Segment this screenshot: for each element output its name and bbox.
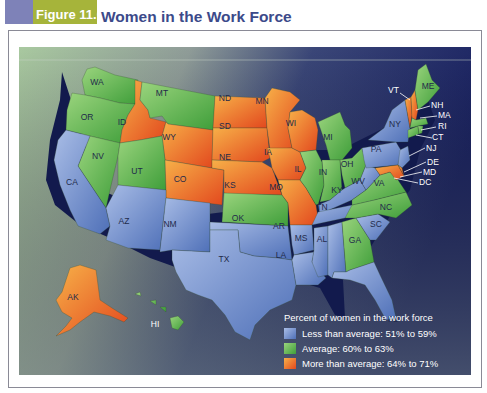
label-OK: OK — [232, 213, 245, 223]
legend-swatch-blue — [284, 328, 296, 339]
label-MN: MN — [255, 96, 268, 106]
legend-item-less: Less than average: 51% to 59% — [284, 326, 464, 341]
label-NY: NY — [389, 119, 401, 129]
label-MA: MA — [438, 110, 451, 120]
label-SC: SC — [370, 219, 382, 229]
label-PA: PA — [371, 144, 382, 154]
label-WV: WV — [351, 176, 365, 186]
legend-item-average: Average: 60% to 63% — [284, 341, 464, 356]
label-MS: MS — [295, 233, 308, 243]
label-AK: AK — [67, 292, 79, 302]
label-IN: IN — [319, 167, 328, 177]
label-HI: HI — [151, 319, 160, 329]
label-GA: GA — [349, 235, 362, 245]
label-LA: LA — [276, 250, 287, 260]
label-UT: UT — [131, 166, 142, 176]
label-NC: NC — [380, 202, 392, 212]
label-TX: TX — [219, 254, 230, 264]
figure-label: Figure 11.6 — [33, 0, 97, 24]
label-WY: WY — [162, 132, 176, 142]
label-NJ: NJ — [426, 143, 436, 153]
figure-title: Women in the Work Force — [101, 8, 292, 26]
legend-swatch-orange — [284, 358, 296, 369]
label-VA: VA — [374, 178, 385, 188]
label-DC: DC — [419, 177, 431, 187]
label-AZ: AZ — [119, 216, 130, 226]
label-CT: CT — [432, 132, 443, 142]
label-MD: MD — [423, 167, 436, 177]
legend-label: Average: 60% to 63% — [302, 343, 394, 354]
label-OH: OH — [341, 159, 354, 169]
label-TN: TN — [316, 202, 327, 212]
label-IL: IL — [294, 164, 301, 174]
label-KY: KY — [331, 185, 343, 195]
label-NV: NV — [92, 151, 104, 161]
label-DE: DE — [427, 157, 439, 167]
label-CO: CO — [174, 174, 187, 184]
label-KS: KS — [224, 180, 236, 190]
label-MO: MO — [269, 182, 283, 192]
label-WI: WI — [286, 118, 296, 128]
label-OR: OR — [81, 112, 94, 122]
label-CA: CA — [66, 177, 78, 187]
legend-label: Less than average: 51% to 59% — [302, 328, 437, 339]
label-SD: SD — [219, 121, 231, 131]
label-IA: IA — [264, 147, 272, 157]
label-ME: ME — [422, 81, 435, 91]
label-VT: VT — [388, 85, 399, 95]
label-WA: WA — [90, 77, 104, 87]
map-legend: Percent of women in the work force Less … — [284, 312, 464, 371]
label-AL: AL — [317, 234, 328, 244]
legend-title: Percent of women in the work force — [284, 312, 464, 323]
state-UT[interactable] — [118, 136, 166, 190]
label-NE: NE — [219, 152, 231, 162]
label-NM: NM — [163, 219, 176, 229]
label-ND: ND — [219, 93, 231, 103]
label-RI: RI — [438, 121, 447, 131]
header-accent-block — [5, 0, 33, 24]
label-NH: NH — [431, 100, 443, 110]
legend-swatch-green — [284, 343, 296, 354]
label-MI: MI — [323, 132, 332, 142]
label-ID: ID — [118, 117, 127, 127]
label-AR: AR — [273, 221, 285, 231]
label-MT: MT — [156, 88, 168, 98]
state-AZ[interactable] — [106, 185, 166, 250]
legend-label: More than average: 64% to 71% — [302, 358, 438, 369]
legend-item-more: More than average: 64% to 71% — [284, 356, 464, 371]
